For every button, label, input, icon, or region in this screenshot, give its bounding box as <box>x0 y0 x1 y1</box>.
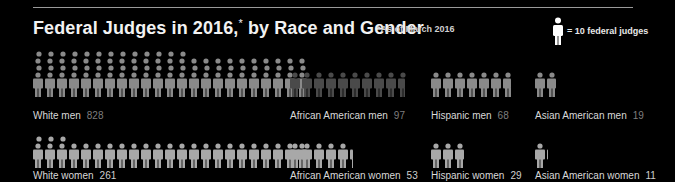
person-icon <box>153 143 163 168</box>
person-icon <box>273 143 283 168</box>
stacked-person-head <box>84 51 89 56</box>
stacked-person-head <box>275 58 280 63</box>
stacked-person-head <box>203 58 208 63</box>
person-icon <box>177 72 187 97</box>
stacked-person-head <box>48 51 53 56</box>
stacked-person-head <box>240 65 245 70</box>
stacked-person-head <box>60 51 65 56</box>
stacked-person-head <box>156 51 161 56</box>
stacked-person-head <box>168 51 173 56</box>
stacked-person-head <box>47 58 52 63</box>
person-icon <box>189 72 199 97</box>
person-icon <box>225 143 235 168</box>
person-icon <box>455 72 465 97</box>
stacked-person-head <box>239 58 244 63</box>
chart-title: Federal Judges in 2016,* by Race and Gen… <box>33 17 424 39</box>
person-icon <box>33 143 43 168</box>
group-value: 19 <box>633 110 644 121</box>
person-icon <box>467 72 477 97</box>
person-icon <box>491 72 501 97</box>
person-icon <box>33 72 43 97</box>
person-icon <box>45 72 55 97</box>
group-value: 68 <box>498 110 509 121</box>
group-name: African American women <box>290 170 401 181</box>
stacked-person-head <box>204 65 209 70</box>
person-icon <box>237 143 247 168</box>
stacked-person-head <box>72 51 77 56</box>
stacked-person-head <box>72 65 77 70</box>
group-value: 11 <box>646 170 656 181</box>
stacked-person-head <box>228 65 233 70</box>
person-icon <box>535 72 545 97</box>
group-value: 261 <box>100 170 117 181</box>
person-icon <box>314 143 324 168</box>
partial-person-icon <box>547 143 555 159</box>
stacked-person-head <box>120 65 125 70</box>
person-icon <box>302 72 312 97</box>
stacked-person-head <box>119 58 124 63</box>
group-label: Asian American women11 <box>535 170 656 181</box>
person-icon <box>338 143 348 168</box>
person-icon <box>165 143 175 168</box>
stacked-person-head <box>36 65 41 70</box>
stacked-person-head <box>216 65 221 70</box>
group-value: 29 <box>510 170 521 181</box>
person-icon <box>153 72 163 97</box>
stacked-person-head <box>108 51 113 56</box>
stacked-person-head <box>107 58 112 63</box>
person-icon <box>225 72 235 97</box>
group-name: Hispanic men <box>431 110 492 121</box>
person-icon <box>386 72 396 97</box>
person-icon <box>105 143 115 168</box>
title-text: Federal Judges in 2016, <box>33 18 238 38</box>
partial-person-icon <box>503 72 511 97</box>
person-icon <box>201 72 211 97</box>
person-icon <box>141 72 151 97</box>
person-icon <box>249 143 259 168</box>
person-icon <box>273 72 283 97</box>
stacked-person-head <box>179 58 184 63</box>
person-icon <box>237 72 247 97</box>
group-label: Hispanic women29 <box>431 170 522 181</box>
stacked-person-head <box>180 51 185 56</box>
group-name: Asian American women <box>535 170 640 181</box>
person-icon <box>374 72 384 97</box>
person-icon <box>129 72 139 97</box>
person-icon <box>443 72 453 97</box>
stacked-person-head <box>156 65 161 70</box>
person-icon <box>249 72 259 97</box>
stacked-person-head <box>96 65 101 70</box>
group-name: African American men <box>290 110 388 121</box>
stacked-person-head <box>36 51 41 56</box>
group-label: Asian American men19 <box>535 110 644 121</box>
group-name: Hispanic women <box>431 170 504 181</box>
group-label: African American women53 <box>290 170 418 181</box>
stacked-person-head <box>120 51 125 56</box>
person-icon <box>552 17 564 45</box>
person-icon <box>261 143 271 168</box>
person-icon <box>93 143 103 168</box>
stacked-person-head <box>180 65 185 70</box>
stacked-person-head <box>35 58 40 63</box>
stacked-person-head <box>95 58 100 63</box>
person-icon <box>45 143 55 168</box>
partial-person-icon <box>455 143 464 168</box>
stacked-person-head <box>60 65 65 70</box>
stacked-person-head <box>144 51 149 56</box>
legend: = 10 federal judges <box>552 16 648 46</box>
group-label: Hispanic men68 <box>431 110 509 121</box>
person-icon <box>57 143 67 168</box>
stacked-person-head <box>191 58 196 63</box>
stacked-person-head <box>96 51 101 56</box>
person-icon <box>431 72 441 97</box>
person-icon <box>93 72 103 97</box>
icon-group <box>535 52 675 112</box>
stacked-person-head <box>192 65 197 70</box>
stacked-person-head <box>263 58 268 63</box>
person-icon <box>213 143 223 168</box>
person-icon <box>69 143 79 168</box>
stacked-person-head <box>60 136 65 141</box>
person-icon <box>362 72 372 97</box>
person-icon <box>261 72 271 97</box>
stacked-person-head <box>48 136 53 141</box>
